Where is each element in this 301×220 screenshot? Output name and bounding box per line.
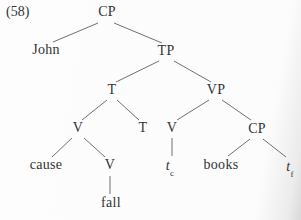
node-cp-root: CP — [98, 5, 116, 19]
syntax-tree-figure: (58) CP John TP T VP V T V CP cause V tc… — [0, 0, 301, 220]
node-v-inner: V — [105, 158, 115, 172]
edge-v-cause — [52, 138, 72, 157]
edge-v-v2 — [84, 138, 105, 157]
node-cause: cause — [30, 158, 63, 172]
node-fall: fall — [101, 196, 121, 210]
node-v-complex: V — [73, 121, 83, 135]
trace-c-subscript: c — [170, 168, 174, 178]
edge-tp-t — [116, 61, 159, 82]
node-tp: TP — [158, 44, 175, 58]
node-v-vp: V — [167, 121, 177, 135]
node-books: books — [204, 158, 239, 172]
node-trace-c: tc — [166, 159, 175, 176]
example-number: (58) — [6, 5, 29, 19]
edge-vp-v — [177, 100, 209, 120]
node-cp-lower: CP — [248, 122, 266, 136]
node-john: John — [32, 43, 60, 57]
node-trace-f: tf — [286, 160, 294, 177]
edge-cp-tf — [263, 139, 286, 157]
edge-cp-books — [228, 139, 250, 156]
trace-f-subscript: f — [290, 169, 293, 179]
edge-cp-john — [53, 23, 98, 42]
edge-vp-cp — [222, 100, 251, 120]
tree-edges — [0, 0, 301, 220]
node-t-head: T — [108, 83, 117, 97]
edge-cp-tp — [114, 23, 162, 43]
edge-t-v — [82, 100, 107, 120]
node-vp: VP — [207, 83, 226, 97]
edge-tp-vp — [174, 61, 211, 82]
edge-t-t2 — [117, 100, 139, 120]
node-t-lower: T — [139, 121, 148, 135]
